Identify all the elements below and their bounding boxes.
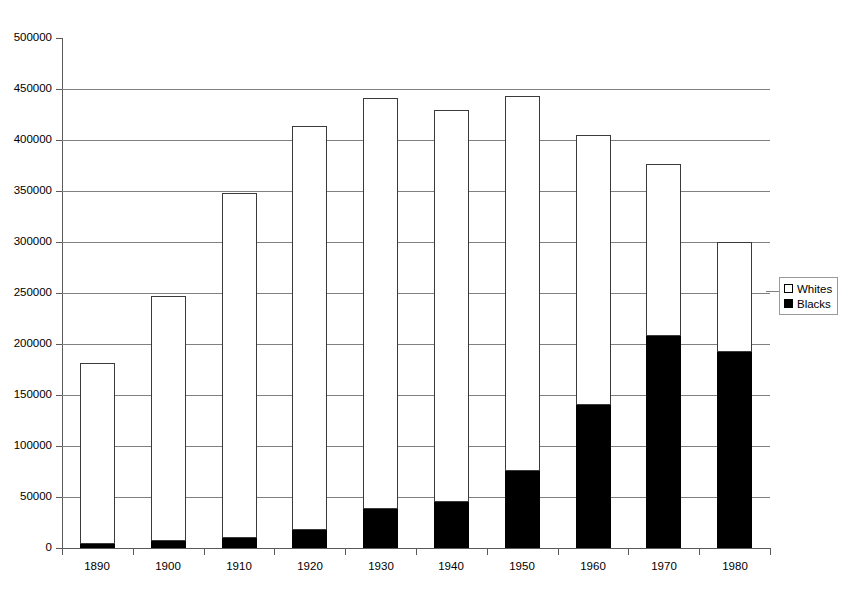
y-axis-tick-label: 250000 bbox=[14, 287, 52, 299]
y-axis-tick-label-wrap: 100000 bbox=[0, 440, 52, 452]
y-axis-tick-label-wrap: 450000 bbox=[0, 83, 52, 95]
legend-label-whites: Whites bbox=[797, 283, 832, 295]
bar-segment-blacks bbox=[80, 544, 115, 548]
x-axis-tick-label: 1940 bbox=[426, 560, 476, 572]
bar-group-1920 bbox=[292, 38, 327, 548]
bar-segment-blacks bbox=[151, 541, 186, 548]
x-axis-tick bbox=[416, 549, 417, 555]
x-axis-tick bbox=[628, 549, 629, 555]
x-axis-tick bbox=[204, 549, 205, 555]
y-axis-tick-label: 150000 bbox=[14, 389, 52, 401]
y-axis-tick-label: 100000 bbox=[14, 440, 52, 452]
y-axis-tick-label: 0 bbox=[46, 542, 52, 554]
bar-segment-whites bbox=[505, 96, 540, 471]
bar-group-1960 bbox=[576, 38, 611, 548]
bar-segment-blacks bbox=[434, 502, 469, 548]
bar-segment-blacks bbox=[717, 352, 752, 548]
bar-segment-whites bbox=[222, 193, 257, 538]
bar-segment-whites bbox=[576, 135, 611, 405]
legend-connector-line bbox=[766, 291, 779, 292]
bar-segment-blacks bbox=[505, 471, 540, 548]
legend-swatch-blacks-icon bbox=[784, 299, 793, 308]
y-axis-tick-label: 350000 bbox=[14, 185, 52, 197]
x-axis-tick-label: 1910 bbox=[214, 560, 264, 572]
y-axis-tick-label-wrap: 150000 bbox=[0, 389, 52, 401]
y-axis-tick-label: 450000 bbox=[14, 83, 52, 95]
x-axis-tick-label: 1930 bbox=[356, 560, 406, 572]
x-axis-tick-label: 1920 bbox=[285, 560, 335, 572]
y-axis-tick-label-wrap: 500000 bbox=[0, 32, 52, 44]
x-axis-tick-label: 1890 bbox=[72, 560, 122, 572]
y-axis-tick-label-wrap: 200000 bbox=[0, 338, 52, 350]
bar-segment-whites bbox=[363, 98, 398, 509]
x-axis-tick bbox=[558, 549, 559, 555]
bar-chart: 0500001000001500002000002500003000003500… bbox=[0, 0, 855, 594]
y-axis-tick-label: 300000 bbox=[14, 236, 52, 248]
bar-segment-whites bbox=[80, 363, 115, 544]
bar-group-1930 bbox=[363, 38, 398, 548]
bar-segment-blacks bbox=[646, 336, 681, 548]
y-axis-tick-label-wrap: 250000 bbox=[0, 287, 52, 299]
bar-segment-blacks bbox=[363, 509, 398, 548]
bar-group-1980 bbox=[717, 38, 752, 548]
legend-item-blacks: Blacks bbox=[784, 296, 832, 311]
x-axis-tick bbox=[274, 549, 275, 555]
x-axis-tick bbox=[770, 549, 771, 555]
x-axis-tick-label: 1970 bbox=[639, 560, 689, 572]
bar-segment-whites bbox=[646, 164, 681, 336]
y-axis-tick-label-wrap: 0 bbox=[0, 542, 52, 554]
y-axis-tick-label: 400000 bbox=[14, 134, 52, 146]
y-axis-tick-label: 500000 bbox=[14, 32, 52, 44]
y-axis-tick-label-wrap: 50000 bbox=[0, 491, 52, 503]
plot-area bbox=[62, 38, 770, 548]
bar-segment-whites bbox=[151, 296, 186, 541]
bar-segment-whites bbox=[717, 242, 752, 352]
y-axis-tick-label-wrap: 400000 bbox=[0, 134, 52, 146]
x-axis-tick bbox=[133, 549, 134, 555]
x-axis-tick-label: 1900 bbox=[143, 560, 193, 572]
x-axis-tick bbox=[62, 549, 63, 555]
bar-group-1900 bbox=[151, 38, 186, 548]
bar-segment-blacks bbox=[222, 538, 257, 548]
bar-group-1910 bbox=[222, 38, 257, 548]
bar-segment-whites bbox=[292, 126, 327, 530]
y-axis-tick-label-wrap: 350000 bbox=[0, 185, 52, 197]
bar-group-1890 bbox=[80, 38, 115, 548]
y-axis-tick-label-wrap: 300000 bbox=[0, 236, 52, 248]
bar-segment-blacks bbox=[292, 530, 327, 548]
x-axis-tick-label: 1960 bbox=[568, 560, 618, 572]
chart-legend: Whites Blacks bbox=[779, 277, 838, 315]
bar-segment-blacks bbox=[576, 405, 611, 548]
bar-segment-whites bbox=[434, 110, 469, 502]
y-axis-tick-label: 200000 bbox=[14, 338, 52, 350]
x-axis-tick bbox=[345, 549, 346, 555]
y-axis-tick-label: 50000 bbox=[20, 491, 52, 503]
x-axis-tick-label: 1950 bbox=[497, 560, 547, 572]
x-axis-tick bbox=[699, 549, 700, 555]
bar-group-1970 bbox=[646, 38, 681, 548]
legend-item-whites: Whites bbox=[784, 281, 832, 296]
x-axis-tick-label: 1980 bbox=[710, 560, 760, 572]
legend-label-blacks: Blacks bbox=[797, 298, 831, 310]
bar-group-1940 bbox=[434, 38, 469, 548]
legend-swatch-whites-icon bbox=[784, 284, 793, 293]
x-axis-tick bbox=[487, 549, 488, 555]
bar-group-1950 bbox=[505, 38, 540, 548]
